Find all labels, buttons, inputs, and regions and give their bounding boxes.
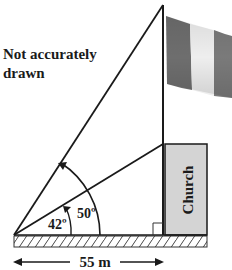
- diagram-canvas: Church 42º 50º 55 m: [0, 0, 232, 270]
- flag: [166, 16, 232, 98]
- angle-arc-50: [61, 163, 100, 235]
- angle-arc-42: [66, 208, 71, 235]
- distance-label: 55 m: [79, 254, 111, 270]
- trig-diagram: Church 42º 50º 55 m Not accurately drawn: [0, 0, 232, 270]
- angle-label-50: 50º: [77, 206, 96, 221]
- right-angle-mark: [153, 223, 163, 235]
- sight-line-flag-top: [14, 5, 163, 235]
- note-line-1: Not accurately: [3, 45, 113, 64]
- arrow-right-icon: [155, 258, 164, 266]
- church-label: Church: [180, 165, 196, 215]
- ground: [14, 236, 207, 247]
- angle-label-42: 42º: [48, 217, 67, 232]
- not-to-scale-note: Not accurately drawn: [3, 45, 113, 83]
- note-line-2: drawn: [3, 64, 113, 83]
- arrow-left-icon: [13, 258, 22, 266]
- sight-line-church-top: [14, 144, 163, 235]
